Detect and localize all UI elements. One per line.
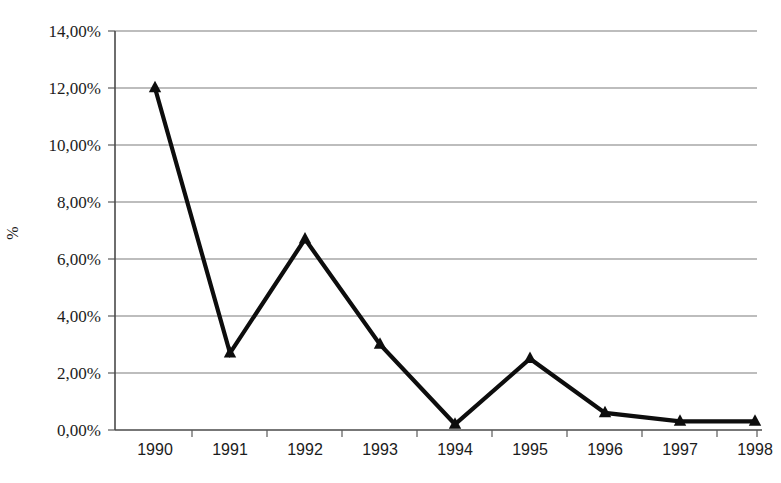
x-tick-label-1993: 1993: [362, 441, 398, 458]
y-tick-label-4: 4,00%: [57, 307, 101, 326]
x-tick-label-1997: 1997: [662, 441, 698, 458]
x-tick-label-1991: 1991: [212, 441, 248, 458]
x-tick-label-1996: 1996: [587, 441, 623, 458]
line-chart: 14,00% 12,00% 10,00% 8,00% 6,00% 4,00% 2…: [0, 0, 781, 483]
x-tick-label-1990: 1990: [137, 441, 173, 458]
y-tick-label-12: 12,00%: [49, 79, 101, 98]
x-axis-tick-labels: 1990 1991 1992 1993 1994 1995 1996 1997 …: [137, 441, 773, 458]
y-tick-label-10: 10,00%: [49, 136, 101, 155]
y-tick-label-0: 0,00%: [57, 421, 101, 440]
y-tick-label-14: 14,00%: [49, 22, 101, 41]
x-tick-label-1992: 1992: [287, 441, 323, 458]
x-tick-label-1998: 1998: [737, 441, 773, 458]
y-tick-label-6: 6,00%: [57, 250, 101, 269]
x-tick-label-1994: 1994: [437, 441, 473, 458]
y-axis-title: %: [4, 226, 21, 239]
x-tick-label-1995: 1995: [512, 441, 548, 458]
y-tick-label-2: 2,00%: [57, 364, 101, 383]
chart-container: 14,00% 12,00% 10,00% 8,00% 6,00% 4,00% 2…: [0, 0, 781, 483]
plot-area-background: [115, 31, 757, 430]
y-tick-label-8: 8,00%: [57, 193, 101, 212]
